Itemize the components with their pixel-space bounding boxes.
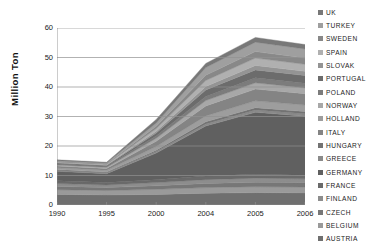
legend-swatch-icon <box>318 50 323 55</box>
legend-item-label: NORWAY <box>326 102 358 109</box>
y-axis-title: Million Ton <box>9 37 23 121</box>
y-tick-label: 10 <box>35 172 53 180</box>
legend-item-label: PORTUGAL <box>326 75 366 82</box>
legend-item-label: ITALY <box>326 129 346 136</box>
legend-item-label: POLAND <box>326 89 356 96</box>
legend-item[interactable]: NORWAY <box>318 99 358 111</box>
legend-item-label: TURKEY <box>326 22 355 29</box>
legend-item[interactable]: SWEDEN <box>318 33 358 45</box>
x-tick-label: 2000 <box>148 209 165 218</box>
legend-item-label: UK <box>326 9 336 16</box>
x-tick-label: 2004 <box>197 209 214 218</box>
legend-swatch-icon <box>318 183 323 188</box>
legend-item-label: FRANCE <box>326 182 356 189</box>
legend-swatch-icon <box>318 236 323 241</box>
x-tick-label: 1995 <box>98 209 115 218</box>
legend-item-label: HUNGARY <box>326 142 362 149</box>
legend-item[interactable]: POLAND <box>318 86 356 98</box>
x-axis-tick-labels: 199019952000200420052006 <box>57 209 305 221</box>
legend-swatch-icon <box>318 116 323 121</box>
stacked-area-svg <box>57 28 305 205</box>
legend-item[interactable]: ITALY <box>318 126 346 138</box>
chart-figure: Million Ton 0102030405060 19901995200020… <box>0 0 386 245</box>
legend-swatch-icon <box>318 63 323 68</box>
legend-swatch-icon <box>318 143 323 148</box>
y-tick-label: 60 <box>35 24 53 32</box>
legend-swatch-icon <box>318 23 323 28</box>
legend-item[interactable]: BELGIUM <box>318 220 359 232</box>
y-tick-label: 0 <box>35 201 53 209</box>
legend-item[interactable]: AUSTRIA <box>318 233 358 245</box>
legend-item[interactable]: HUNGARY <box>318 140 362 152</box>
legend-swatch-icon <box>318 10 323 15</box>
legend-item[interactable]: SPAIN <box>318 46 348 58</box>
x-tick-label: 1990 <box>49 209 66 218</box>
x-tick-label: 2005 <box>247 209 264 218</box>
legend-item[interactable]: FRANCE <box>318 180 356 192</box>
legend-swatch-icon <box>318 76 323 81</box>
y-tick-label: 50 <box>35 54 53 62</box>
legend-item[interactable]: FINLAND <box>318 193 357 205</box>
legend-item-label: SPAIN <box>326 49 348 56</box>
legend-swatch-icon <box>318 210 323 215</box>
legend-swatch-icon <box>318 156 323 161</box>
legend-item[interactable]: GERMANY <box>318 166 363 178</box>
x-tick-label: 2006 <box>297 209 314 218</box>
legend-swatch-icon <box>318 223 323 228</box>
legend-swatch-icon <box>318 36 323 41</box>
y-tick-label: 40 <box>35 83 53 91</box>
legend-swatch-icon <box>318 196 323 201</box>
legend-item-label: GERMANY <box>326 169 363 176</box>
legend-item[interactable]: GREECE <box>318 153 357 165</box>
legend-item-label: HOLLAND <box>326 115 360 122</box>
chart-legend: UKTURKEYSWEDENSPAINSLOVAKPORTUGALPOLANDN… <box>318 2 386 245</box>
legend-item[interactable]: UK <box>318 6 336 18</box>
legend-item[interactable]: SLOVAK <box>318 59 355 71</box>
plot-area <box>57 28 305 205</box>
legend-item[interactable]: PORTUGAL <box>318 73 366 85</box>
legend-item-label: SWEDEN <box>326 35 358 42</box>
legend-item-label: SLOVAK <box>326 62 355 69</box>
legend-swatch-icon <box>318 90 323 95</box>
legend-swatch-icon <box>318 103 323 108</box>
legend-swatch-icon <box>318 130 323 135</box>
legend-item-label: FINLAND <box>326 195 357 202</box>
legend-item[interactable]: TURKEY <box>318 19 355 31</box>
legend-swatch-icon <box>318 170 323 175</box>
legend-item-label: CZECH <box>326 209 351 216</box>
y-tick-label: 30 <box>35 113 53 121</box>
legend-item-label: GREECE <box>326 155 357 162</box>
legend-item[interactable]: HOLLAND <box>318 113 360 125</box>
legend-item-label: BELGIUM <box>326 222 359 229</box>
y-axis-tick-labels: 0102030405060 <box>32 28 53 205</box>
legend-item[interactable]: CZECH <box>318 206 351 218</box>
y-tick-label: 20 <box>35 142 53 150</box>
legend-item-label: AUSTRIA <box>326 235 358 242</box>
